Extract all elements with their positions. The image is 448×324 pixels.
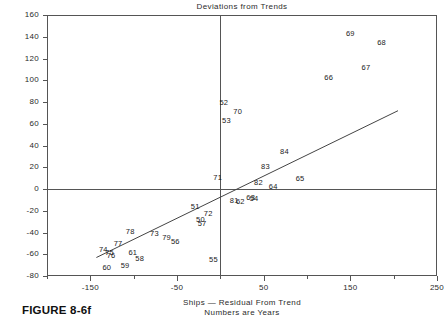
data-point-label: 58	[135, 253, 144, 262]
y-tick-label: 0	[0, 184, 39, 193]
x-tick-mark	[437, 276, 438, 281]
y-tick-label: -80	[0, 271, 39, 280]
x-tick-mark	[177, 276, 178, 281]
data-point-label: 62	[236, 196, 245, 205]
data-point-label: 82	[254, 178, 263, 187]
plot-area	[47, 15, 437, 276]
y-tick-mark	[43, 80, 47, 81]
data-point-label: 54	[250, 193, 259, 202]
data-point-label: 78	[126, 227, 135, 236]
y-tick-mark	[43, 254, 47, 255]
x-tick-label: -50	[147, 283, 207, 292]
data-point-label: 66	[324, 72, 333, 81]
x-minor-tick-mark	[134, 276, 135, 279]
data-point-label: 84	[280, 146, 289, 155]
x-minor-tick-mark	[220, 276, 221, 279]
x-minor-tick-mark	[307, 276, 308, 279]
y-tick-mark	[43, 37, 47, 38]
data-point-label: 56	[171, 237, 180, 246]
x-tick-mark	[90, 276, 91, 281]
data-point-label: 67	[362, 63, 371, 72]
horizontal-zero-line	[47, 189, 437, 190]
data-point-label: 70	[233, 106, 242, 115]
data-point-label: 64	[269, 181, 278, 190]
y-tick-label: 80	[0, 97, 39, 106]
y-tick-label: 120	[0, 54, 39, 63]
y-tick-label: -40	[0, 228, 39, 237]
data-point-label: 68	[377, 38, 386, 47]
data-point-label: 57	[198, 218, 207, 227]
x-tick-mark	[264, 276, 265, 281]
vertical-zero-line	[220, 15, 221, 276]
x-tick-mark	[350, 276, 351, 281]
data-point-label: 72	[204, 208, 213, 217]
y-tick-label: -60	[0, 249, 39, 258]
x-minor-tick-mark	[394, 276, 395, 279]
data-point-label: 76	[107, 251, 116, 260]
x-axis-label-secondary: Numbers are Years	[204, 308, 279, 317]
figure-container: Deviations from Trends -80-60-40-2002040…	[0, 0, 448, 324]
y-tick-mark	[43, 124, 47, 125]
y-tick-mark	[43, 102, 47, 103]
data-point-label: 59	[121, 261, 130, 270]
y-tick-mark	[43, 211, 47, 212]
data-point-label: 79	[162, 232, 171, 241]
data-point-label: 83	[261, 162, 270, 171]
data-point-label: 60	[102, 263, 111, 272]
data-point-label: 65	[296, 174, 305, 183]
data-point-label: 69	[346, 29, 355, 38]
data-point-label: 52	[219, 98, 228, 107]
x-axis-label-primary: Ships — Residual From Trend	[183, 298, 301, 307]
data-point-label: 73	[150, 228, 159, 237]
data-point-label: 53	[222, 116, 231, 125]
y-tick-label: 20	[0, 162, 39, 171]
x-tick-label: -150	[60, 283, 120, 292]
data-point-label: 55	[209, 254, 218, 263]
y-tick-label: 100	[0, 75, 39, 84]
x-tick-label: 250	[407, 283, 448, 292]
x-tick-label: 50	[234, 283, 294, 292]
y-tick-mark	[43, 15, 47, 16]
figure-caption: FIGURE 8-6f	[22, 304, 91, 316]
y-tick-label: -20	[0, 206, 39, 215]
y-tick-label: 140	[0, 32, 39, 41]
data-point-label: 51	[191, 202, 200, 211]
y-tick-label: 40	[0, 141, 39, 150]
y-tick-mark	[43, 146, 47, 147]
x-tick-label: 150	[320, 283, 380, 292]
y-tick-mark	[43, 59, 47, 60]
data-point-label: 77	[114, 239, 123, 248]
x-minor-tick-mark	[47, 276, 48, 279]
chart-title: Deviations from Trends	[196, 2, 287, 11]
y-tick-mark	[43, 167, 47, 168]
y-tick-label: 160	[0, 10, 39, 19]
data-point-label: 71	[213, 173, 222, 182]
y-tick-label: 60	[0, 119, 39, 128]
y-tick-mark	[43, 233, 47, 234]
